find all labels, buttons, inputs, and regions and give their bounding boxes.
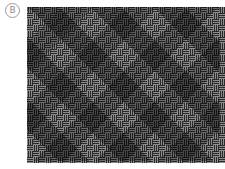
panel-label-text: B [9,6,15,15]
basketweave-texture-image [27,7,220,161]
weave-cell [219,157,225,163]
panel-label-badge: B [5,3,20,18]
weave-pattern [27,7,220,161]
